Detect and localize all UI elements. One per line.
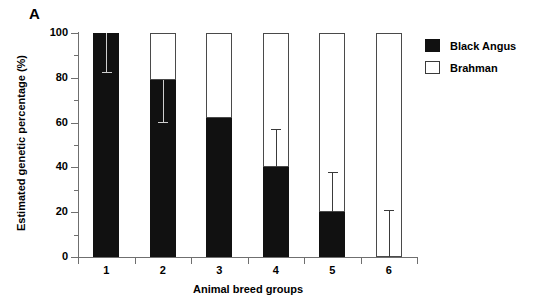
legend-label: Brahman — [450, 62, 498, 74]
y-tick-major — [71, 212, 78, 213]
error-bar — [163, 80, 164, 123]
bar-segment-brahman[interactable] — [206, 33, 232, 118]
x-tick-label: 4 — [256, 264, 296, 276]
error-bar-cap — [271, 129, 281, 130]
bar-group[interactable] — [150, 33, 176, 257]
x-tick — [78, 258, 79, 264]
error-bar-cap — [384, 210, 394, 211]
error-bar-stem — [276, 129, 277, 167]
y-tick-major — [71, 33, 78, 34]
y-tick-label: 20 — [28, 206, 68, 217]
y-tick-major — [71, 257, 78, 258]
error-bar-stem — [106, 33, 107, 73]
y-tick-major — [71, 167, 78, 168]
legend-item[interactable]: Black Angus — [425, 36, 516, 55]
figure-panel-a: A Estimated genetic percentage (%) Anima… — [0, 0, 536, 306]
bar-group[interactable] — [319, 33, 345, 257]
legend-label: Black Angus — [450, 40, 516, 52]
error-bar — [276, 129, 277, 167]
legend-swatch-black-angus — [425, 39, 440, 52]
bar-segment-black-angus[interactable] — [206, 118, 232, 257]
y-tick-major — [71, 78, 78, 79]
x-tick — [304, 258, 305, 264]
x-tick-label: 2 — [143, 264, 183, 276]
bar-segment-brahman[interactable] — [150, 33, 176, 80]
error-bar-stem — [332, 172, 333, 212]
x-tick — [248, 258, 249, 264]
x-tick-label: 1 — [86, 264, 126, 276]
x-tick-label: 6 — [369, 264, 409, 276]
error-bar-cap — [158, 122, 168, 123]
y-tick-label: 80 — [28, 72, 68, 83]
x-tick — [417, 258, 418, 264]
y-tick-label: 40 — [28, 161, 68, 172]
bar-group[interactable] — [206, 33, 232, 257]
x-tick-label: 5 — [312, 264, 352, 276]
legend-swatch-brahman — [425, 61, 440, 74]
x-axis-title: Animal breed groups — [128, 283, 368, 295]
legend: Black AngusBrahman — [425, 36, 516, 80]
error-bar-stem — [163, 80, 164, 123]
error-bar-cap — [102, 72, 112, 73]
error-bar-cap — [328, 172, 338, 173]
error-bar-stem — [389, 210, 390, 257]
x-tick — [361, 258, 362, 264]
bar-segment-black-angus[interactable] — [319, 212, 345, 257]
bar-segment-black-angus[interactable] — [263, 167, 289, 257]
y-axis-title: Estimated genetic percentage (%) — [15, 28, 27, 258]
x-tick — [191, 258, 192, 264]
y-tick-label: 60 — [28, 117, 68, 128]
x-tick — [135, 258, 136, 264]
error-bar — [106, 33, 107, 73]
y-tick-label: 100 — [28, 27, 68, 38]
plot-area — [78, 33, 417, 257]
error-bar — [389, 210, 390, 257]
legend-item[interactable]: Brahman — [425, 58, 516, 77]
y-tick-label: 0 — [28, 251, 68, 262]
x-tick-label: 3 — [199, 264, 239, 276]
y-tick-major — [71, 123, 78, 124]
panel-label: A — [29, 5, 40, 22]
error-bar — [332, 172, 333, 212]
